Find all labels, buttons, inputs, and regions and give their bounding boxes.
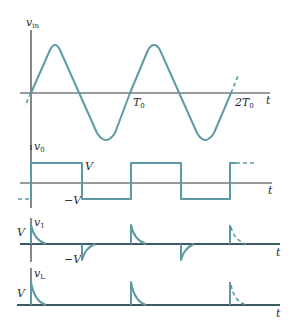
v1-neg-spike-2 xyxy=(181,244,194,260)
vL-t-label: t xyxy=(276,307,281,320)
vL-spike-1 xyxy=(31,282,46,305)
v1-level-minusV: −V xyxy=(64,253,82,266)
vin-dashed-end xyxy=(231,76,238,93)
tick-T0: T0 xyxy=(133,96,145,110)
v1-pos-spike-2 xyxy=(131,225,146,244)
panel-vL: vL V t xyxy=(17,267,281,320)
panel-vin: vin t T0 2T0 xyxy=(20,16,271,150)
v1-y-label: v1 xyxy=(34,216,45,230)
v1-dashed-decay xyxy=(231,227,246,244)
v0-t-label: t xyxy=(268,184,273,197)
panel-v1: v1 V −V t xyxy=(17,216,281,266)
vin-t-label: t xyxy=(266,94,271,107)
v1-level-V: V xyxy=(17,226,26,239)
v0-y-label: v0 xyxy=(34,140,45,154)
vL-dashed-decay xyxy=(231,285,246,305)
v0-level-V: V xyxy=(85,160,94,173)
vin-dashed-start xyxy=(25,93,31,106)
v0-level-minusV: −V xyxy=(64,194,82,207)
tick-2T0: 2T0 xyxy=(234,96,254,110)
vin-y-label: vin xyxy=(26,16,39,30)
waveform-figure: vin t T0 2T0 v0 t V −V v1 V −V t xyxy=(0,0,296,330)
vL-level-V: V xyxy=(17,287,26,300)
v1-t-label: t xyxy=(276,246,281,259)
v0-waveform xyxy=(31,163,236,199)
vL-spike-2 xyxy=(131,282,146,305)
panel-v0: v0 t V −V xyxy=(18,140,273,208)
v1-neg-spike-1 xyxy=(82,244,95,260)
vL-y-label: vL xyxy=(34,267,45,281)
